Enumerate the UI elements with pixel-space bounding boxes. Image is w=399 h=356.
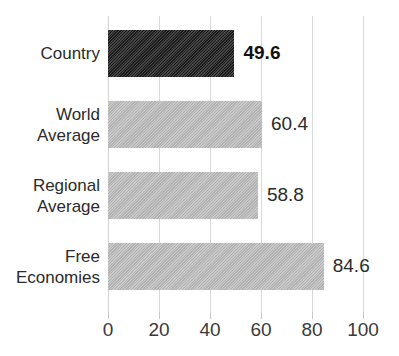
tick-mark-60 xyxy=(261,312,262,319)
x-tick-label-100: 100 xyxy=(347,319,379,341)
tick-mark-40 xyxy=(210,312,211,319)
tick-mark-0 xyxy=(108,312,109,319)
tick-mark-80 xyxy=(312,312,313,319)
bar-chart: CountryWorldAverageRegionalAverageFreeEc… xyxy=(0,0,399,356)
value-label-0: 49.6 xyxy=(243,42,280,64)
plot-area: 49.660.458.884.6 xyxy=(108,16,363,312)
category-label-line: Free xyxy=(0,246,100,267)
x-tick-label-40: 40 xyxy=(199,319,220,341)
category-label-line: Average xyxy=(0,125,100,146)
x-tick-label-60: 60 xyxy=(250,319,271,341)
bar-0 xyxy=(108,30,234,77)
tick-mark-100 xyxy=(363,312,364,319)
category-label-3: FreeEconomies xyxy=(0,246,100,288)
category-label-line: Regional xyxy=(0,175,100,196)
category-axis: CountryWorldAverageRegionalAverageFreeEc… xyxy=(0,16,100,312)
bar-2 xyxy=(108,172,258,219)
category-label-2: RegionalAverage xyxy=(0,175,100,217)
bar-3 xyxy=(108,243,324,290)
x-tick-label-0: 0 xyxy=(103,319,114,341)
category-label-line: World xyxy=(0,104,100,125)
x-axis: 020406080100 xyxy=(108,319,363,347)
category-label-line: Economies xyxy=(0,267,100,288)
value-label-3: 84.6 xyxy=(333,255,370,277)
x-tick-label-20: 20 xyxy=(148,319,169,341)
category-label-line: Average xyxy=(0,196,100,217)
chart-title xyxy=(0,0,399,6)
bar-1 xyxy=(108,101,262,148)
value-label-2: 58.8 xyxy=(267,184,304,206)
category-label-line: Country xyxy=(0,43,100,64)
category-label-0: Country xyxy=(0,43,100,64)
x-tick-label-80: 80 xyxy=(301,319,322,341)
value-label-1: 60.4 xyxy=(271,113,308,135)
category-label-1: WorldAverage xyxy=(0,104,100,146)
tick-mark-20 xyxy=(159,312,160,319)
